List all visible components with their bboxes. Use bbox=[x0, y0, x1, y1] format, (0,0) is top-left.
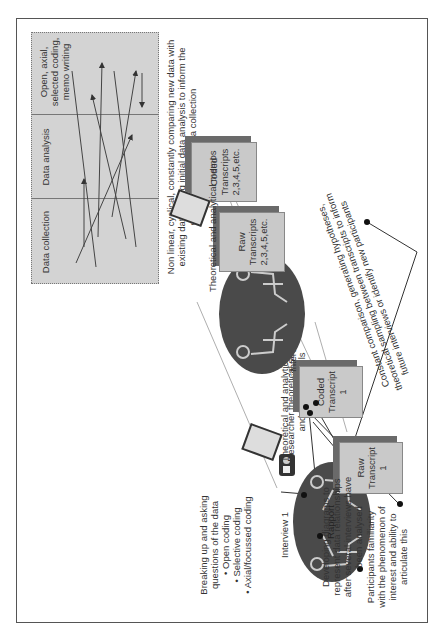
comparison-dot-end bbox=[364, 219, 370, 225]
raw-transcripts-2-5: Raw Transcripts 2,3,4,5,etc. bbox=[219, 212, 285, 272]
memo2-label: Theoretical and analytical memos bbox=[207, 150, 218, 292]
diagram-note-dot bbox=[397, 501, 403, 507]
coding-note-screen: Breaking up and asking questions of the … bbox=[198, 490, 253, 600]
coded-transcripts-2-5: Coded Transcripts 2,3,4,5,etc. bbox=[191, 142, 257, 202]
diagram-note-screen: Developing diagrams to represent data re… bbox=[320, 472, 364, 602]
